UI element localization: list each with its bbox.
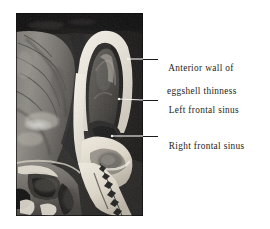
anatomy-figure: Anterior wall of eggshell thinness Left … [0, 0, 270, 229]
label-right-frontal-sinus: Right frontal sinus [158, 130, 245, 164]
leader-dot-anterior-wall [127, 58, 129, 60]
label-left-frontal-sinus: Left frontal sinus [158, 94, 239, 128]
label-right-frontal-sinus-text: Right frontal sinus [169, 141, 245, 151]
leader-line-anterior-wall [143, 59, 158, 60]
leader-dot-right-sinus [111, 135, 113, 137]
label-left-frontal-sinus-text: Left frontal sinus [169, 105, 239, 115]
leader-line-left-frontal-sinus [143, 100, 158, 101]
sagittal-skull-photograph [16, 13, 143, 216]
label-anterior-wall-line1: Anterior wall of [168, 63, 234, 73]
leader-line-right-frontal-sinus [143, 136, 158, 137]
leader-dot-left-sinus [118, 98, 120, 100]
photograph-content [16, 13, 143, 216]
